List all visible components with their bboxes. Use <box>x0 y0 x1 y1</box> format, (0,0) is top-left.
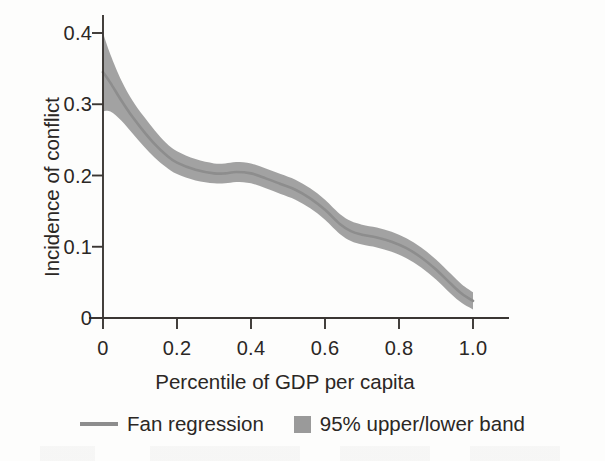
x-axis-tick-label: 0.2 <box>163 337 191 360</box>
x-axis-tick-label: 1.0 <box>459 337 487 360</box>
fan-regression-line <box>103 72 473 301</box>
y-axis-tick-label: 0.4 <box>20 22 92 45</box>
chart-legend: Fan regression 95% upper/lower band <box>0 412 605 436</box>
figure: 00.10.20.30.4 00.20.40.60.81.0 Incidence… <box>0 0 605 461</box>
legend-square-swatch-icon <box>294 416 311 433</box>
legend-label-confidence-band: 95% upper/lower band <box>320 412 525 436</box>
legend-line-swatch-icon <box>80 422 118 426</box>
y-axis-ticks <box>92 33 103 318</box>
y-axis-title: Incidence of conflict <box>40 57 64 317</box>
x-axis-ticks <box>103 318 473 329</box>
x-axis-tick-label: 0.4 <box>237 337 265 360</box>
x-axis-tick-label: 0.8 <box>385 337 413 360</box>
legend-label-fan-regression: Fan regression <box>127 412 264 436</box>
x-axis-tick-label: 0.6 <box>311 337 339 360</box>
plot-area: 00.10.20.30.4 00.20.40.60.81.0 Incidence… <box>0 0 605 340</box>
x-axis-title: Percentile of GDP per capita <box>0 370 570 394</box>
legend-item-fan-regression: Fan regression <box>80 412 264 436</box>
scan-bleed-artifact <box>0 446 605 461</box>
x-axis-tick-label: 0 <box>97 337 108 360</box>
legend-item-confidence-band: 95% upper/lower band <box>294 412 525 436</box>
confidence-band <box>103 33 473 309</box>
